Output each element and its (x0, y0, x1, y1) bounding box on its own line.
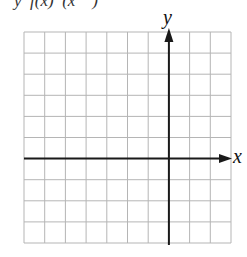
y-axis-label: y (163, 6, 172, 29)
y-axis-arrow-icon (164, 28, 173, 42)
coordinate-grid (0, 0, 247, 257)
x-axis-label: x (233, 145, 242, 168)
x-axis-arrow-icon (219, 154, 232, 163)
grid-lines (24, 32, 231, 243)
